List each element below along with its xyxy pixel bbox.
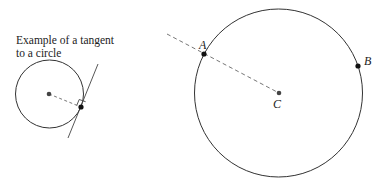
label-b: B: [364, 54, 372, 68]
radius-dashed-line: [49, 94, 81, 107]
tangent-example: [16, 60, 99, 138]
diagram-canvas: A B C: [0, 0, 381, 187]
label-a: A: [198, 38, 207, 52]
small-circle-center-dot: [47, 92, 52, 97]
label-c: C: [273, 97, 282, 111]
tangent-point-dot: [78, 104, 83, 109]
point-a-dot: [201, 51, 206, 56]
center-c-dot: [277, 91, 282, 96]
large-circle-figure: A B C: [167, 9, 372, 177]
point-b-dot: [355, 63, 360, 68]
dashed-line-through-a: [167, 34, 279, 93]
